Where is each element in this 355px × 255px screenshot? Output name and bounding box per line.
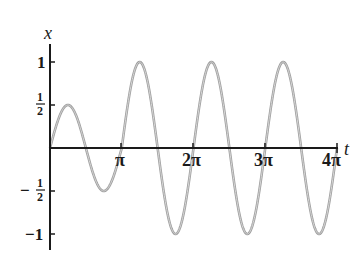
y-tick-label-neg-1: −1 [25, 225, 43, 244]
y-tick-label-1: 1 [37, 53, 46, 72]
chart: x t 1 1 2 − 1 2 −1 π 2π 3π 4π [0, 0, 355, 255]
half-numerator: 1 [37, 90, 43, 104]
x-tick-label-3pi: 3π [254, 150, 273, 170]
neg-half-sign: − [20, 181, 30, 200]
half-denominator: 2 [37, 104, 43, 118]
x-tick-label-4pi: 4π [322, 150, 341, 170]
y-tick-label-half: 1 2 [36, 90, 45, 118]
neg-half-denominator: 2 [37, 190, 43, 204]
x-tick-label-2pi: 2π [182, 150, 201, 170]
x-tick-label-pi: π [115, 150, 125, 170]
y-axis-label: x [43, 23, 52, 43]
y-tick-label-neg-half: − 1 2 [20, 176, 45, 204]
neg-half-numerator: 1 [37, 176, 43, 190]
x-axis-label: t [344, 139, 350, 159]
